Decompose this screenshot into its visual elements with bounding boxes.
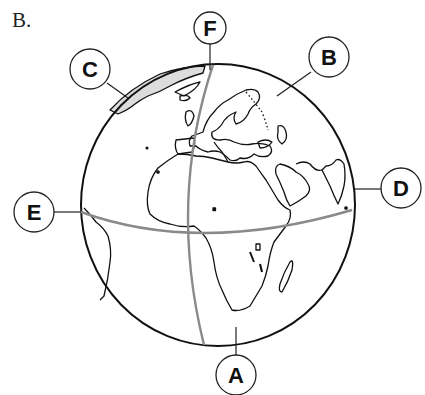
label-d: D	[381, 168, 421, 208]
label-f-text: F	[203, 16, 216, 41]
label-b: B	[309, 37, 349, 77]
label-d-text: D	[393, 176, 409, 201]
label-f: F	[194, 12, 226, 44]
label-e: E	[14, 192, 54, 232]
label-a-text: A	[228, 363, 244, 388]
atlantic-island-dot	[146, 147, 148, 149]
label-c-text: C	[82, 57, 98, 82]
sao-tome-island	[213, 208, 216, 211]
canary-islands	[157, 171, 159, 173]
label-c: C	[70, 49, 110, 89]
leader-line-c	[107, 83, 128, 98]
globe-diagram: F B C D E A	[0, 0, 425, 395]
label-e-text: E	[27, 200, 42, 225]
label-b-text: B	[321, 45, 337, 70]
label-a: A	[216, 355, 256, 395]
sri-lanka	[345, 207, 347, 209]
